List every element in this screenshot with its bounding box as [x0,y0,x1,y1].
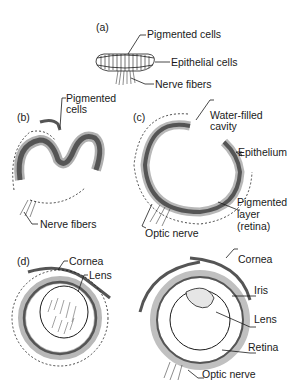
label-e-cornea: Cornea [238,254,272,265]
eye-evolution-diagram [0,0,304,383]
label-a-epithelial-cells: Epithelial cells [171,57,238,68]
label-c-cavity: cavity [210,121,237,132]
panel-e-camera-eye [140,249,256,380]
label-b-nerve-fibers: Nerve fibers [40,219,97,230]
panel-label-d: (d) [17,255,30,267]
label-c-optic-nerve: Optic nerve [145,228,199,239]
label-a-pigmented-cells: Pigmented cells [147,29,221,40]
label-e-retina: Retina [248,342,278,353]
label-e-optic-nerve: Optic nerve [202,369,256,380]
label-d-cornea: Cornea [69,256,103,267]
label-a-nerve-fibers: Nerve fibers [155,79,212,90]
label-e-iris: Iris [254,285,268,296]
panel-label-b: (b) [17,111,30,123]
label-c-layer: layer [237,209,260,220]
label-c-retina: (retina) [237,221,270,232]
label-d-lens: Lens [89,270,112,281]
label-b-cells: cells [66,104,87,115]
label-c-epithelium: Epithelium [238,147,287,158]
label-c-pigmented: Pigmented [237,197,287,208]
label-e-lens: Lens [254,314,277,325]
panel-label-c: (c) [133,111,145,123]
panel-label-a: (a) [96,21,109,33]
